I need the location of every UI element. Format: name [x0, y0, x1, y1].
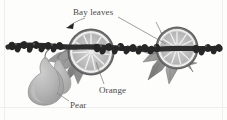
- illustration-canvas: [0, 0, 227, 120]
- label-orange: Orange: [99, 86, 126, 95]
- arrowhead-bay-leaves: [66, 23, 74, 29]
- figure-container: Bay leaves Orange Pear: [0, 0, 227, 120]
- label-pear: Pear: [70, 101, 86, 110]
- label-bay-leaves: Bay leaves: [73, 8, 113, 17]
- leader-line-bay-right: [118, 17, 166, 44]
- orange-slice-left: [68, 29, 115, 76]
